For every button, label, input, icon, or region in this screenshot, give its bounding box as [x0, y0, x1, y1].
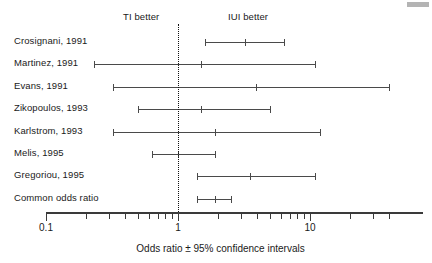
ci-upper-cap [231, 196, 232, 203]
x-axis-minor-tick [373, 214, 374, 219]
x-axis-major-tick [178, 214, 179, 221]
confidence-interval-line [113, 132, 321, 133]
x-axis-major-tick [46, 214, 47, 221]
x-axis-minor-tick [350, 214, 351, 219]
ci-lower-cap [113, 84, 114, 91]
ci-lower-cap [197, 173, 198, 180]
corner-artifact [407, 2, 429, 7]
confidence-interval-line [138, 109, 270, 110]
ci-lower-cap [152, 151, 153, 158]
x-axis-minor-tick [158, 214, 159, 219]
confidence-interval-line [152, 154, 215, 155]
x-axis-minor-tick [165, 214, 166, 219]
x-axis-minor-tick [86, 214, 87, 219]
left-group-header: TI better [123, 11, 159, 22]
x-axis-minor-tick [290, 214, 291, 219]
x-axis-minor-tick [241, 214, 242, 219]
x-axis-line [46, 212, 423, 214]
x-axis-minor-tick [270, 214, 271, 219]
x-axis-minor-tick [138, 214, 139, 219]
x-axis-minor-tick [109, 214, 110, 219]
confidence-interval-line [113, 87, 390, 88]
ci-upper-cap [389, 84, 390, 91]
point-estimate [201, 106, 202, 113]
x-axis-minor-tick [281, 214, 282, 219]
point-estimate [250, 173, 251, 180]
ci-upper-cap [270, 106, 271, 113]
study-label: Gregoriou, 1995 [14, 169, 84, 180]
ci-lower-cap [113, 129, 114, 136]
point-estimate [215, 129, 216, 136]
study-label: Zikopoulos, 1993 [14, 102, 88, 113]
confidence-interval-line [197, 176, 315, 177]
x-axis-minor-tick [172, 214, 173, 219]
x-axis-minor-tick [304, 214, 305, 219]
study-label: Martinez, 1991 [14, 57, 78, 68]
ci-lower-cap [138, 106, 139, 113]
right-group-header: IUI better [228, 11, 268, 22]
x-axis-minor-tick [218, 214, 219, 219]
study-label: Common odds ratio [14, 192, 99, 203]
point-estimate [256, 84, 257, 91]
ci-upper-cap [315, 61, 316, 68]
x-axis-caption: Odds ratio ± 95% confidence intervals [136, 243, 304, 254]
point-estimate [245, 39, 246, 46]
confidence-interval-line [94, 64, 316, 65]
point-estimate [201, 61, 202, 68]
ci-upper-cap [315, 173, 316, 180]
ci-upper-cap [215, 151, 216, 158]
x-axis-tick-label: 10 [304, 222, 315, 233]
forest-plot-figure: TI better IUI better Crosignani, 1991Mar… [0, 0, 432, 263]
null-reference-line [178, 24, 179, 212]
x-axis-major-tick [310, 214, 311, 221]
summary-point-estimate [215, 196, 216, 203]
study-label: Evans, 1991 [14, 80, 68, 91]
x-axis-minor-tick [125, 214, 126, 219]
study-label: Crosignani, 1991 [14, 35, 87, 46]
study-label: Melis, 1995 [14, 147, 64, 158]
x-axis-minor-tick [297, 214, 298, 219]
ci-upper-cap [320, 129, 321, 136]
x-axis-tick-label: 1 [175, 222, 181, 233]
ci-lower-cap [94, 61, 95, 68]
ci-lower-cap [205, 39, 206, 46]
ci-upper-cap [284, 39, 285, 46]
study-label: Karlstrom, 1993 [14, 125, 83, 136]
ci-lower-cap [197, 196, 198, 203]
x-axis-minor-tick [389, 214, 390, 219]
x-axis-tick-label: 0.1 [39, 222, 53, 233]
x-axis-minor-tick [149, 214, 150, 219]
x-axis-minor-tick [257, 214, 258, 219]
